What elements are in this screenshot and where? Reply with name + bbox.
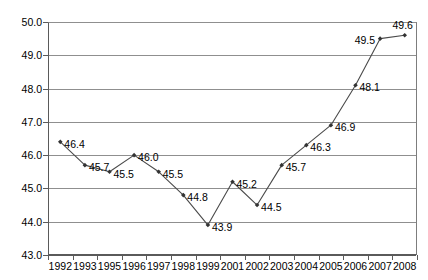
y-axis-tick-label: 48.0 [0,83,42,94]
x-axis-tick-label: 2003 [270,261,293,272]
gridline [49,222,416,223]
data-point-label: 44.5 [261,202,281,213]
data-point-label: 46.9 [335,122,355,133]
x-axis-tick-label: 1997 [147,261,170,272]
data-point-label: 45.5 [163,169,183,180]
data-point-label: 49.5 [355,35,375,46]
x-axis-tick-label: 1996 [122,261,145,272]
x-axis-tick-label: 1993 [73,261,96,272]
x-axis-tick-label: 1992 [49,261,72,272]
x-axis-tick-label: 1995 [98,261,121,272]
y-axis-tick-mark [43,188,48,189]
line-chart: 50.049.048.047.046.045.044.043.0 1992199… [0,0,428,280]
data-point-label: 46.3 [310,142,330,153]
y-axis-tick-mark [43,22,48,23]
y-axis-tick-mark [43,55,48,56]
y-axis-tick-label: 49.0 [0,50,42,61]
data-point-label: 48.1 [360,82,380,93]
x-axis-tick-label: 2001 [221,261,244,272]
data-point-label: 46.0 [138,152,158,163]
x-axis-tick-mark [417,255,418,260]
y-axis-tick-mark [43,122,48,123]
x-axis-tick-label: 2002 [245,261,268,272]
gridline [49,188,416,189]
x-axis-tick-label: 2008 [393,261,416,272]
data-point-label: 45.7 [89,162,109,173]
x-axis-tick-label: 2004 [295,261,318,272]
x-axis-tick-label: 2005 [319,261,342,272]
data-point-label: 45.7 [286,162,306,173]
gridline [49,255,416,256]
y-axis-tick-mark [43,155,48,156]
y-axis-tick-mark [43,222,48,223]
x-axis-tick-label: 2007 [368,261,391,272]
data-point-label: 44.8 [187,192,207,203]
y-axis-tick-label: 47.0 [0,117,42,128]
y-axis-tick-mark [43,89,48,90]
gridline [49,55,416,56]
gridline [49,155,416,156]
data-point-label: 49.6 [392,20,412,31]
data-point-label: 45.2 [237,179,257,190]
data-point-label: 45.5 [114,169,134,180]
x-axis-tick-label: 1998 [172,261,195,272]
data-point-label: 43.9 [212,222,232,233]
y-axis-tick-label: 50.0 [0,17,42,28]
y-axis-tick-label: 45.0 [0,183,42,194]
plot-area [48,22,417,255]
x-axis-tick-label: 2006 [344,261,367,272]
data-point-label: 46.4 [64,139,84,150]
x-axis-tick-label: 1999 [196,261,219,272]
y-axis-tick-label: 44.0 [0,216,42,227]
y-axis-tick-label: 46.0 [0,150,42,161]
y-axis-tick-label: 43.0 [0,250,42,261]
gridline [49,122,416,123]
